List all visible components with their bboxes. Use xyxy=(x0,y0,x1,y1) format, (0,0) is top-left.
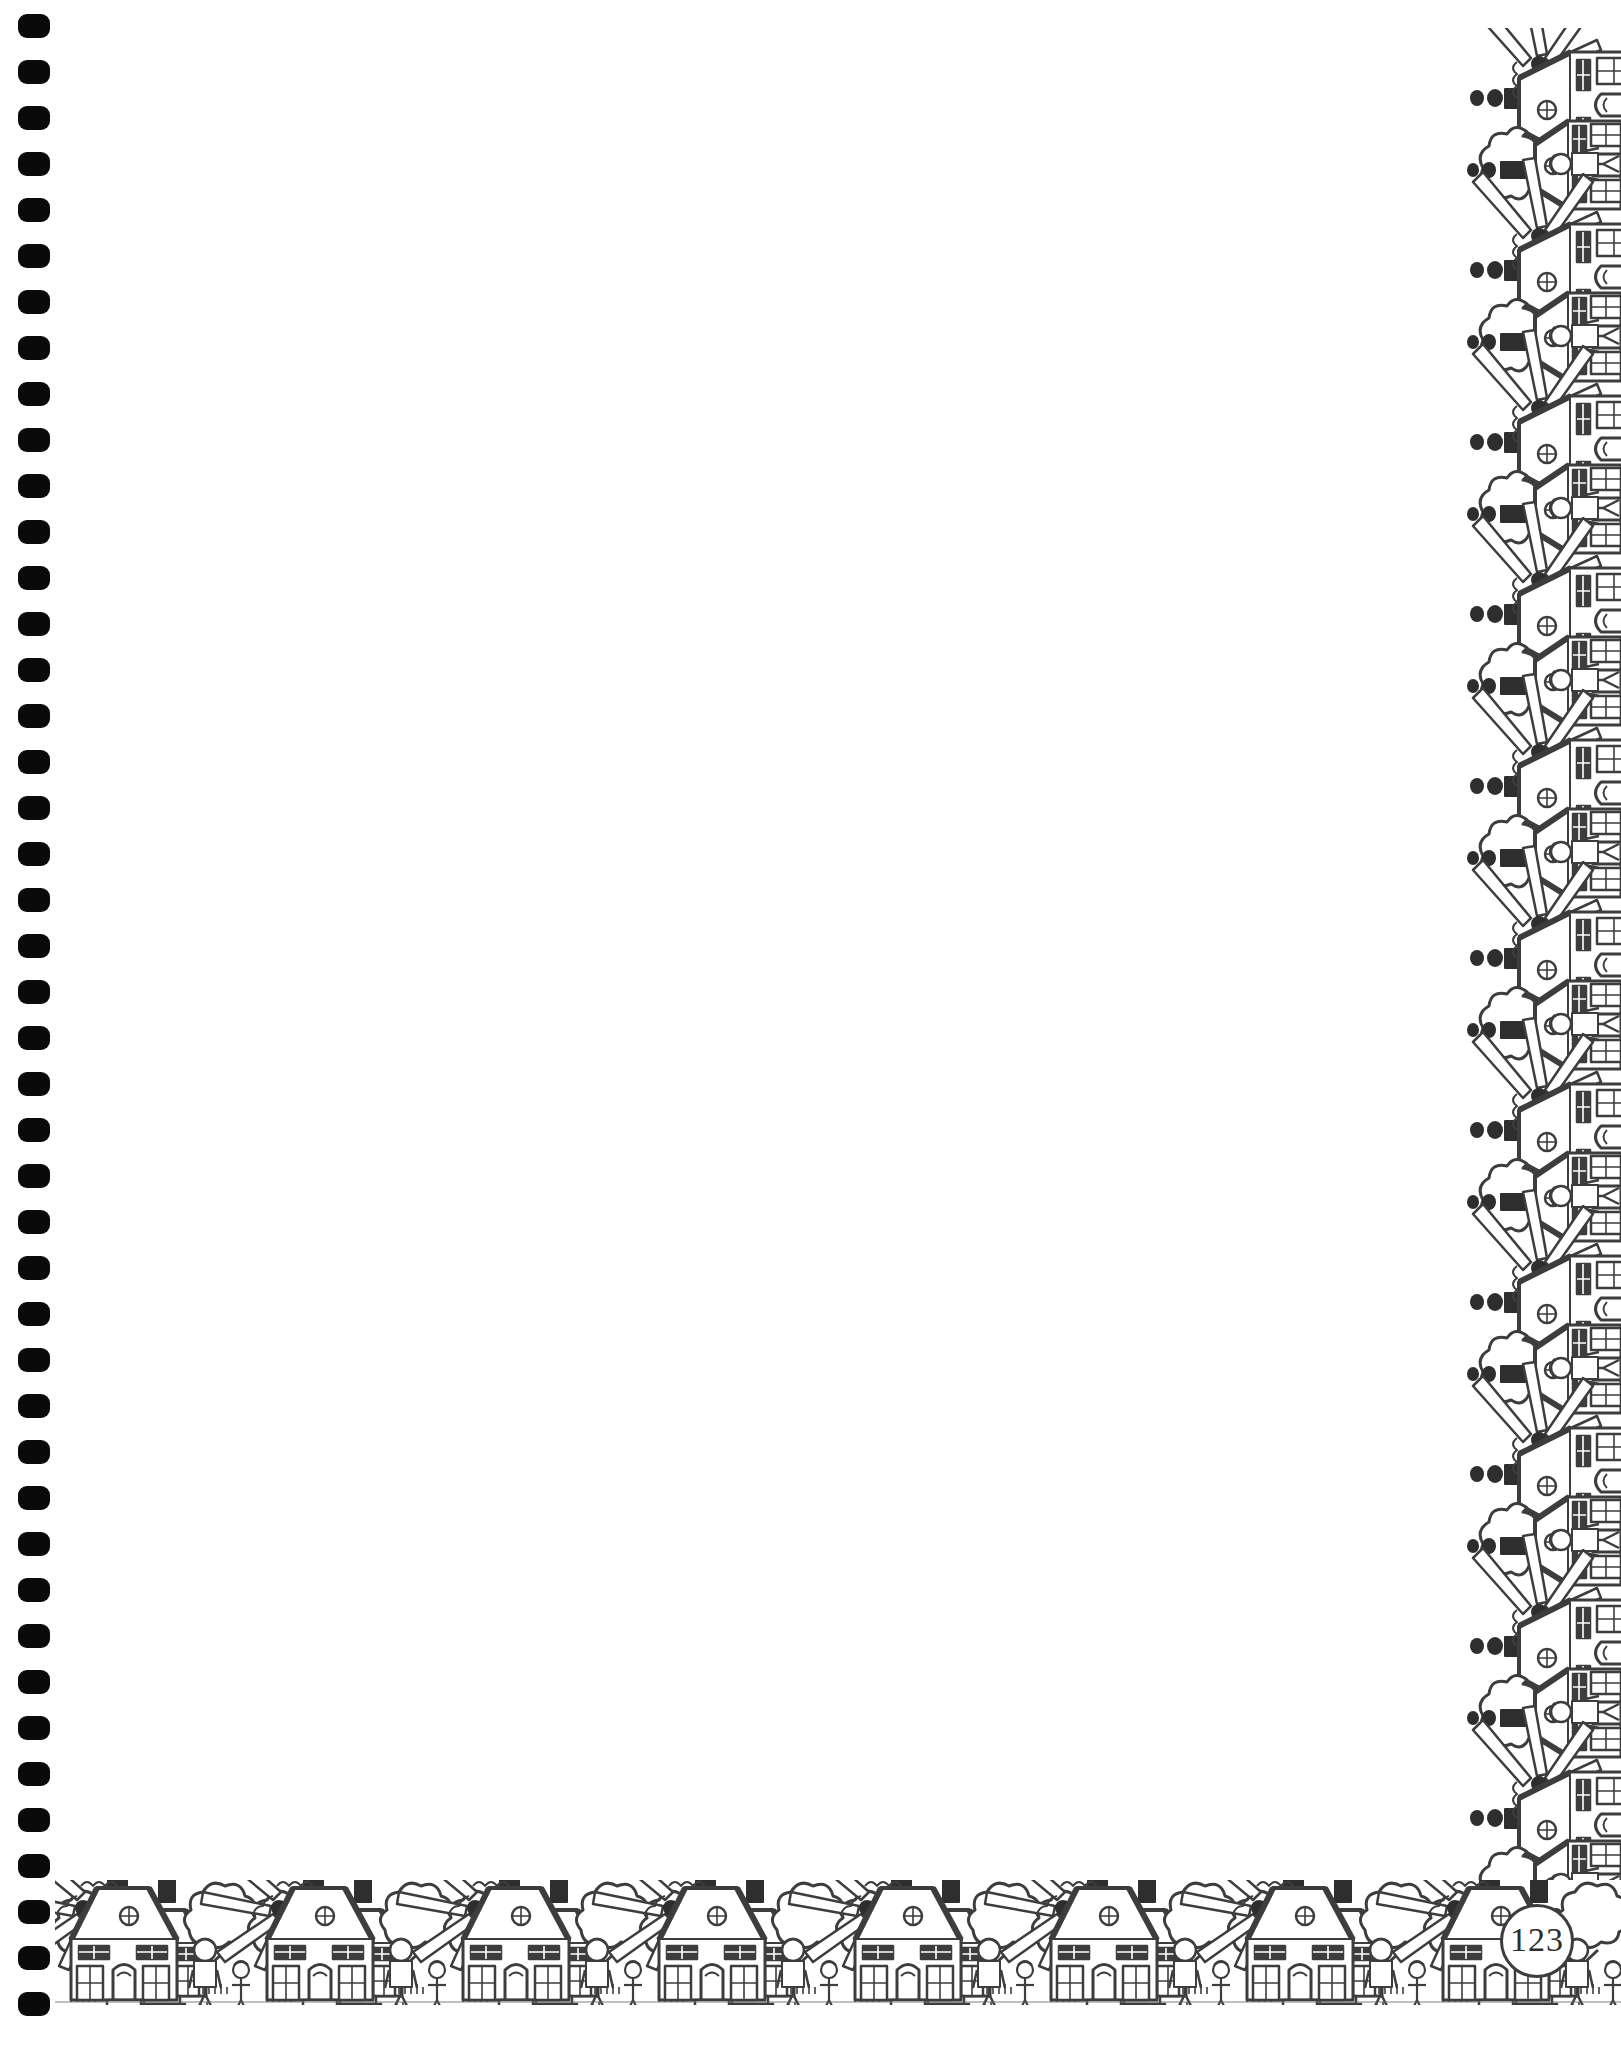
punch-hole-icon xyxy=(18,1946,50,1970)
punch-hole-icon xyxy=(18,888,50,912)
punch-hole-icon xyxy=(18,658,50,682)
right-border-illustration xyxy=(1461,28,1621,1908)
punch-hole-icon xyxy=(18,336,50,360)
punch-hole-icon xyxy=(18,290,50,314)
punch-hole-icon xyxy=(18,1440,50,1464)
punch-hole-icon xyxy=(18,612,50,636)
binding-hole-column xyxy=(0,0,70,2047)
punch-hole-icon xyxy=(18,1670,50,1694)
punch-hole-icon xyxy=(18,152,50,176)
punch-hole-icon xyxy=(18,1900,50,1924)
punch-hole-icon xyxy=(18,1808,50,1832)
punch-hole-icon xyxy=(18,1762,50,1786)
punch-hole-icon xyxy=(18,1118,50,1142)
writing-area[interactable] xyxy=(70,30,1460,1875)
punch-hole-icon xyxy=(18,1394,50,1418)
punch-hole-icon xyxy=(18,566,50,590)
punch-hole-icon xyxy=(18,796,50,820)
punch-hole-icon xyxy=(18,1348,50,1372)
punch-hole-icon xyxy=(18,244,50,268)
page-number-badge: 123 xyxy=(1500,1904,1574,1978)
punch-hole-icon xyxy=(18,14,50,38)
punch-hole-icon xyxy=(18,1578,50,1602)
punch-hole-icon xyxy=(18,980,50,1004)
punch-hole-icon xyxy=(18,1026,50,1050)
punch-hole-icon xyxy=(18,1486,50,1510)
punch-hole-icon xyxy=(18,1256,50,1280)
punch-hole-icon xyxy=(18,1992,50,2016)
punch-hole-icon xyxy=(18,842,50,866)
punch-hole-icon xyxy=(18,1624,50,1648)
punch-hole-icon xyxy=(18,750,50,774)
punch-hole-icon xyxy=(18,1072,50,1096)
notebook-page: 123 xyxy=(0,0,1621,2047)
punch-hole-icon xyxy=(18,60,50,84)
punch-hole-icon xyxy=(18,520,50,544)
punch-hole-icon xyxy=(18,704,50,728)
punch-hole-icon xyxy=(18,382,50,406)
punch-hole-icon xyxy=(18,198,50,222)
punch-hole-icon xyxy=(18,1164,50,1188)
punch-hole-icon xyxy=(18,934,50,958)
punch-hole-icon xyxy=(18,1210,50,1234)
punch-hole-icon xyxy=(18,106,50,130)
punch-hole-icon xyxy=(18,1532,50,1556)
punch-hole-icon xyxy=(18,1302,50,1326)
punch-hole-icon xyxy=(18,1716,50,1740)
page-number-label: 123 xyxy=(1510,1923,1564,1959)
punch-hole-icon xyxy=(18,428,50,452)
punch-hole-icon xyxy=(18,1854,50,1878)
punch-hole-icon xyxy=(18,474,50,498)
bottom-border-illustration xyxy=(55,1880,1621,2005)
